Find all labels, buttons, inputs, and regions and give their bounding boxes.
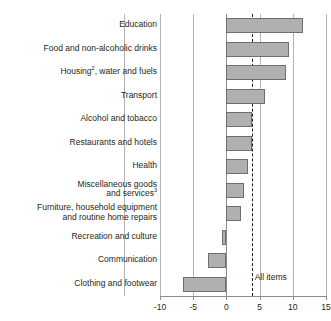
category-label: Education: [119, 20, 157, 30]
category-label: Clothing and footwear: [74, 279, 157, 289]
x-tick-label-15: 15: [321, 302, 330, 312]
category-label: Housing2, water and fuels: [60, 67, 157, 77]
gridline-neg5: [193, 14, 194, 296]
category-label: Communication: [98, 255, 157, 265]
x-tick-15: [326, 296, 327, 300]
bar: [226, 206, 241, 221]
x-tick-0: [226, 296, 227, 300]
x-tick-neg5: [193, 296, 194, 300]
category-label: Food and non-alcoholic drinks: [44, 44, 157, 54]
x-tick-label-10: 10: [288, 302, 297, 312]
bar: [226, 159, 248, 174]
bar-chart: · · All items-10-5051015EducationFood an…: [0, 0, 331, 321]
plot-left-boundary: [160, 14, 161, 296]
category-label: Recreation and culture: [71, 232, 157, 242]
x-tick-label-neg5: -5: [189, 302, 197, 312]
bar: [226, 112, 251, 127]
x-axis-line: [160, 296, 326, 297]
category-label: Alcohol and tobacco: [80, 114, 157, 124]
category-label: Restaurants and hotels: [70, 138, 157, 148]
x-tick-10: [293, 296, 294, 300]
x-tick-neg10: [160, 296, 161, 300]
bar: [226, 89, 265, 104]
category-label: Transport: [121, 91, 157, 101]
bar: [183, 277, 227, 292]
x-tick-5: [260, 296, 261, 300]
bar: [226, 65, 286, 80]
gridline-15: [326, 14, 327, 296]
bar: [226, 18, 303, 33]
bar: [208, 253, 226, 268]
bar: [226, 183, 244, 198]
bar: [226, 42, 288, 57]
category-label: Health: [132, 161, 157, 171]
all-items-average-label: All items: [255, 272, 287, 282]
bar: [226, 136, 251, 151]
gridline-10: [293, 14, 294, 296]
x-tick-label-5: 5: [257, 302, 262, 312]
category-label: Furniture, household equipment and routi…: [37, 203, 157, 222]
category-label: Miscellaneous goodsand services3: [78, 180, 157, 199]
x-tick-label-neg10: -10: [154, 302, 166, 312]
bar: [222, 230, 226, 245]
chart-title-remnant: · ·: [18, 0, 26, 3]
x-tick-label-0: 0: [224, 302, 229, 312]
